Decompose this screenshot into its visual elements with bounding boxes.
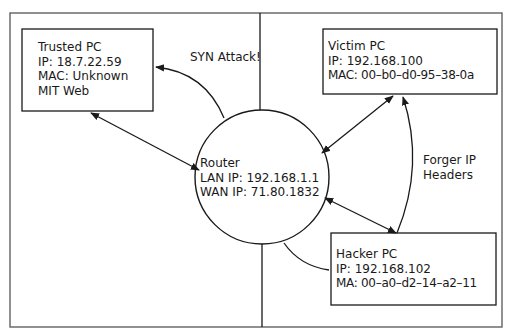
trusted-pc-mac: MAC: Unknown bbox=[38, 69, 128, 84]
trusted-pc-org: MIT Web bbox=[38, 84, 128, 99]
victim-pc-label: Victim PC IP: 192.168.100 MAC: 00–b0–d0-… bbox=[328, 39, 474, 83]
victim-pc-name: Victim PC bbox=[328, 39, 474, 54]
router-label: Router LAN IP: 192.168.1.1 WAN IP: 71.80… bbox=[200, 156, 320, 200]
router-hacker-curve bbox=[284, 243, 329, 270]
forger-ip-line2: Headers bbox=[423, 168, 476, 183]
forged-headers-arrow bbox=[397, 97, 413, 233]
syn-attack-label: SYN Attack! bbox=[190, 50, 261, 65]
syn-attack-arrow bbox=[156, 67, 224, 118]
router-name: Router bbox=[200, 156, 320, 171]
victim-router-link bbox=[322, 96, 393, 153]
trusted-pc-ip: IP: 18.7.22.59 bbox=[38, 55, 128, 70]
hacker-pc-name: Hacker PC bbox=[336, 247, 477, 262]
hacker-pc-mac: MA: 00–a0–d2–14–a2–11 bbox=[336, 276, 477, 291]
victim-pc-mac: MAC: 00–b0–d0-95–38-0a bbox=[328, 68, 474, 83]
hacker-pc-label: Hacker PC IP: 192.168.102 MA: 00–a0–d2–1… bbox=[336, 247, 477, 291]
router-wan-ip: WAN IP: 71.80.1832 bbox=[200, 185, 320, 200]
router-lan-ip: LAN IP: 192.168.1.1 bbox=[200, 171, 320, 186]
forger-ip-label: Forger IP Headers bbox=[423, 153, 476, 182]
victim-pc-ip: IP: 192.168.100 bbox=[328, 54, 474, 69]
trusted-router-link bbox=[91, 113, 199, 170]
trusted-pc-name: Trusted PC bbox=[38, 40, 128, 55]
forger-ip-line1: Forger IP bbox=[423, 153, 476, 168]
trusted-pc-label: Trusted PC IP: 18.7.22.59 MAC: Unknown M… bbox=[38, 40, 128, 98]
hacker-pc-ip: IP: 192.168.102 bbox=[336, 262, 477, 277]
router-hacker-link bbox=[325, 198, 396, 233]
